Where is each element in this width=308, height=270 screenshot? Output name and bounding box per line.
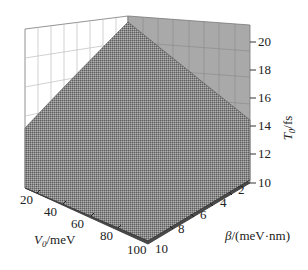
z-axis-label: T0/fs bbox=[280, 116, 297, 141]
y-tick: 10 bbox=[155, 241, 168, 256]
svg-text:T0/fs: T0/fs bbox=[280, 116, 297, 141]
z-tick: 16 bbox=[258, 90, 272, 105]
y-tick: 4 bbox=[220, 195, 227, 210]
z-tick: 10 bbox=[258, 175, 271, 190]
surface-plot: 10 12 14 16 18 20 T0/fs 20 40 60 80 100 … bbox=[0, 0, 308, 270]
z-tick: 14 bbox=[258, 118, 272, 133]
z-tick: 18 bbox=[258, 62, 271, 77]
y-axis-label: β/(meV·nm) bbox=[224, 228, 290, 243]
x-tick: 40 bbox=[44, 204, 57, 219]
x-axis-label: V0/meV bbox=[34, 232, 76, 249]
y-tick: 2 bbox=[238, 182, 245, 197]
x-tick: 100 bbox=[127, 242, 147, 257]
z-axis: 10 12 14 16 18 20 T0/fs bbox=[250, 34, 297, 190]
y-tick: 8 bbox=[178, 221, 185, 236]
z-tick: 20 bbox=[258, 34, 271, 49]
x-tick: 20 bbox=[20, 192, 33, 207]
x-tick: 80 bbox=[100, 228, 113, 243]
x-tick: 60 bbox=[71, 216, 84, 231]
y-tick: 6 bbox=[200, 207, 207, 222]
z-tick: 12 bbox=[258, 146, 271, 161]
